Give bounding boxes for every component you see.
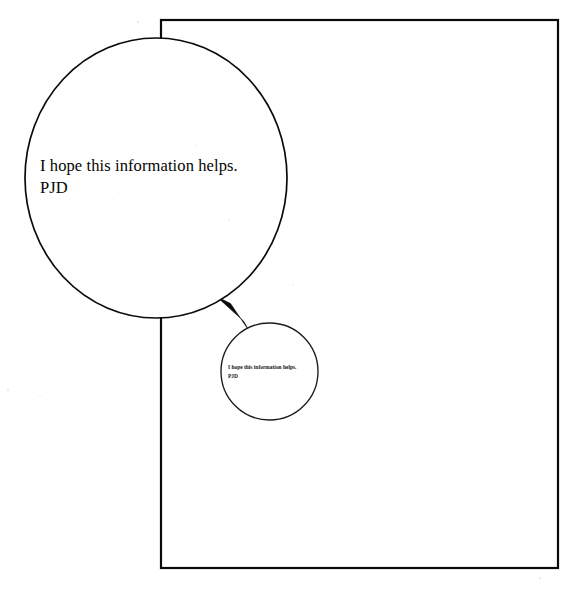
document-page: I hope this information helps. PJD I hop…: [0, 0, 580, 591]
magnifier-connector-wedge: [217, 297, 250, 332]
document-drawing-canvas: [0, 0, 580, 591]
source-region-text: I hope this information helps. PJD: [228, 364, 314, 380]
callout-magnified-text: I hope this information helps. PJD: [40, 155, 280, 199]
